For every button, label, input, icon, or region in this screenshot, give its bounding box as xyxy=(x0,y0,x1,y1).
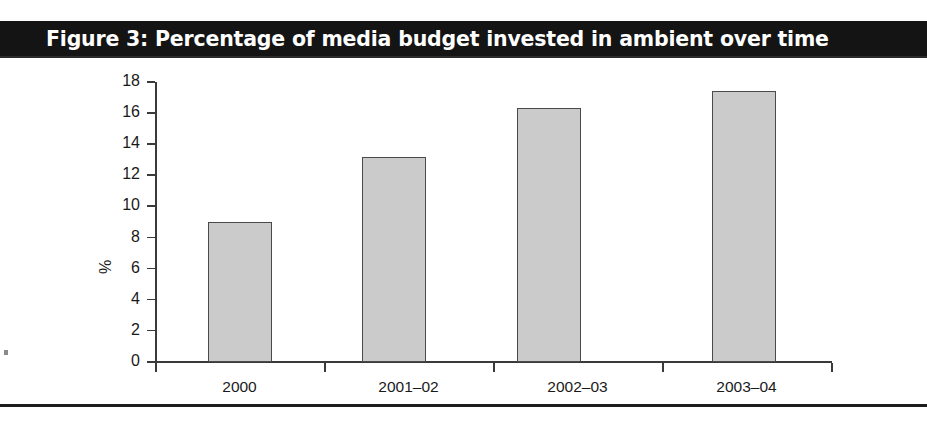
x-axis-category-label: 2001–02 xyxy=(378,378,438,396)
y-axis-tick-label-text: 2 xyxy=(106,322,140,338)
x-axis-tick-mark xyxy=(324,363,326,372)
y-axis-tick-label-text: 0 xyxy=(106,353,140,369)
x-axis-category-label: 2003–04 xyxy=(716,378,776,396)
bar-2003–04 xyxy=(712,91,776,362)
bar-chart: % 181614121086420 20002001–022002–032003… xyxy=(0,58,927,388)
figure-page: Figure 3: Percentage of media budget inv… xyxy=(0,0,927,426)
figure-title-bar: Figure 3: Percentage of media budget inv… xyxy=(0,21,927,58)
y-axis-tick-mark xyxy=(147,143,155,145)
y-axis-tick-label-text: 16 xyxy=(106,104,140,120)
y-axis-tick-label-text: 10 xyxy=(106,197,140,213)
y-axis-tick-label: 6 xyxy=(102,260,140,276)
y-axis-tick-mark xyxy=(147,237,155,239)
y-axis-tick-mark xyxy=(147,361,155,363)
y-axis-tick-label: 12 xyxy=(102,166,140,182)
footer-divider xyxy=(0,404,927,407)
y-axis-tick-label: 2 xyxy=(102,322,140,338)
y-axis-tick-label: 18 xyxy=(102,73,140,89)
x-axis-category-label: 2002–03 xyxy=(547,378,607,396)
y-axis-tick-mark xyxy=(147,205,155,207)
y-axis-tick-label-text: 8 xyxy=(106,229,140,245)
y-axis-tick-mark xyxy=(147,268,155,270)
y-axis-tick-label-text: 12 xyxy=(106,166,140,182)
bar-2000 xyxy=(208,222,272,362)
x-axis-category-label: 2000 xyxy=(222,378,256,396)
y-axis-tick-mark xyxy=(147,112,155,114)
y-axis-tick-mark xyxy=(147,330,155,332)
y-axis-tick-label-text: 18 xyxy=(106,73,140,89)
y-axis-tick-mark xyxy=(147,81,155,83)
y-axis-tick-mark xyxy=(147,299,155,301)
y-axis-tick-label: 8 xyxy=(102,229,140,245)
bar-2001–02 xyxy=(362,157,426,362)
x-axis-tick-mark xyxy=(831,363,833,372)
x-axis-tick-mark xyxy=(662,363,664,372)
y-axis-tick-mark xyxy=(147,174,155,176)
y-axis-tick-label: 14 xyxy=(102,135,140,151)
page-title: Figure 3: Percentage of media budget inv… xyxy=(46,27,829,51)
x-axis-tick-mark xyxy=(155,363,157,372)
y-axis-tick-label: 0 xyxy=(102,353,140,369)
y-axis-tick-label-text: 4 xyxy=(106,291,140,307)
x-axis-tick-mark xyxy=(493,363,495,372)
y-axis-tick-label-text: 6 xyxy=(106,260,140,276)
y-axis-line xyxy=(155,82,157,363)
scan-artifact-dot xyxy=(4,350,8,355)
y-axis-tick-label-text: 14 xyxy=(106,135,140,151)
y-axis-tick-label: 4 xyxy=(102,291,140,307)
y-axis-tick-label: 16 xyxy=(102,104,140,120)
y-axis-tick-label: 10 xyxy=(102,197,140,213)
bar-2002–03 xyxy=(517,108,581,362)
